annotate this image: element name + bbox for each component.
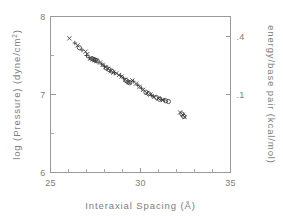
series-open-circle (77, 46, 186, 119)
x-tick-label: 25 (45, 178, 56, 188)
y-tick-label: 6 (40, 168, 45, 178)
data-point-cross (67, 36, 71, 40)
plot-frame (51, 17, 231, 173)
plot-canvas: 253035678.4.1Interaxial Spacing (Å)log (… (0, 0, 283, 221)
right-tick-label: .4 (237, 32, 245, 42)
series-cross (67, 36, 186, 119)
x-axis-title: Interaxial Spacing (Å) (85, 200, 196, 211)
scatter-plot-figure: 253035678.4.1Interaxial Spacing (Å)log (… (0, 0, 283, 221)
y-axis-title-left-close: ) (11, 29, 22, 33)
y-tick-label: 7 (40, 90, 45, 100)
right-tick-label: .1 (237, 90, 245, 100)
data-point-circle (166, 99, 170, 103)
data-point-plus (80, 48, 84, 52)
y-axis-title-left-main: log (Pressure) (dyne/cm (11, 38, 22, 160)
y-tick-label: 8 (40, 12, 45, 22)
x-tick-label: 30 (135, 178, 146, 188)
y-axis-title-left: log (Pressure) (dyne/cm2) (11, 29, 22, 160)
x-tick-label: 35 (225, 178, 236, 188)
y-axis-title-right: energy/base pair (kcal/mol) (266, 25, 277, 164)
